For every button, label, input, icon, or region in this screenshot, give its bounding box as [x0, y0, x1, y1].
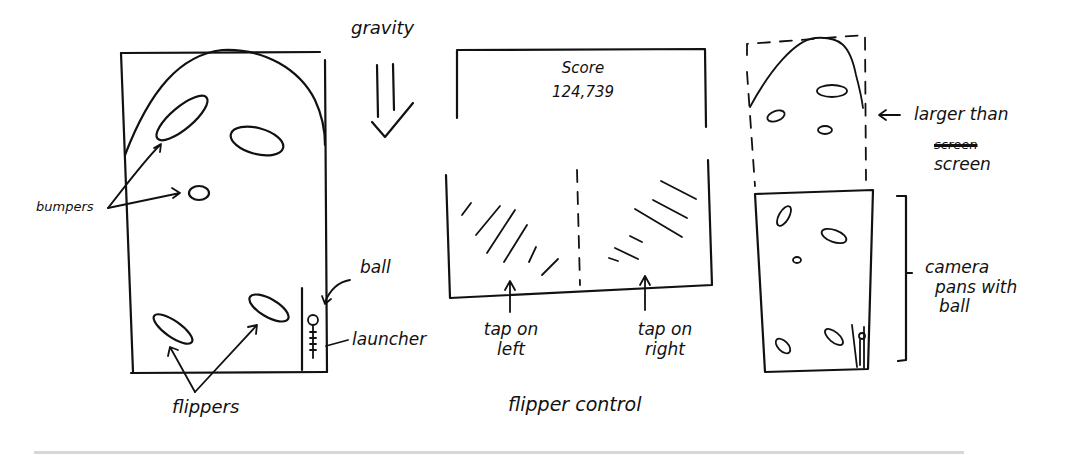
- offscreen-arch: [750, 38, 863, 108]
- play-screen-frame: [446, 160, 712, 298]
- bumper-top-right: [228, 121, 287, 160]
- sketch-drawing: [0, 0, 1089, 455]
- screen-flipper-right: [822, 326, 845, 348]
- tap-right-line-2: right: [620, 340, 710, 360]
- tap-left-line-1: tap on: [466, 320, 556, 340]
- camera-pans-label: camera pans with ball: [925, 258, 1017, 317]
- offscreen-table-dashes-left: [747, 72, 755, 186]
- bumpers-label: bumpers: [36, 200, 94, 215]
- flippers-arrow-1: [168, 347, 195, 392]
- tap-right-line-1: tap on: [620, 320, 710, 340]
- score-value: 124,739: [540, 84, 626, 101]
- tap-right-label: tap on right: [620, 320, 710, 359]
- tap-left-label: tap on left: [466, 320, 556, 359]
- visible-screen-frame: [755, 190, 873, 372]
- bumper-top-left: [150, 89, 213, 147]
- bumpers-arrow-2: [108, 188, 180, 208]
- camera-panning: [747, 35, 912, 372]
- tap-zone-right-hatching: [609, 181, 696, 261]
- center-divider: [577, 170, 580, 285]
- camera-bracket: [897, 196, 912, 361]
- mini-bumper-3: [818, 126, 832, 134]
- screen-bumper-2: [820, 226, 849, 246]
- screen-flipper-left: [773, 336, 793, 356]
- tap-left-line-2: left: [466, 340, 556, 360]
- offscreen-table-dashes-right: [747, 35, 866, 180]
- larger-than-arrow-icon: [879, 110, 900, 120]
- tap-left-arrow-icon: [505, 281, 515, 312]
- table-left-edge: [121, 53, 133, 372]
- tap-right-arrow-icon: [640, 276, 650, 310]
- camera-pans-line-1: camera: [925, 258, 1017, 278]
- launcher-spring: [310, 326, 316, 358]
- screen-launcher: [852, 325, 864, 368]
- ball: [308, 315, 318, 325]
- flippers-label: flippers: [172, 397, 239, 418]
- bottom-divider: [34, 451, 964, 454]
- camera-pans-line-3: ball: [925, 297, 1017, 317]
- launcher-label: launcher: [352, 330, 426, 350]
- flipper-right: [245, 289, 292, 327]
- tap-zone-left-hatching: [462, 203, 558, 275]
- gravity-arrow-icon: [372, 64, 413, 137]
- table-bottom-edge: [131, 372, 327, 373]
- struck-word: screen: [934, 138, 978, 153]
- ball-label: ball: [360, 258, 391, 278]
- flippers-arrow-2: [195, 325, 257, 392]
- screen-bumper-3: [793, 257, 801, 263]
- table-top-edge: [121, 52, 320, 53]
- mini-bumper-2: [766, 108, 786, 124]
- gravity-label: gravity: [351, 18, 414, 39]
- score-title: Score: [548, 60, 618, 77]
- table-right-edge: [325, 60, 327, 372]
- screen-bumper-1: [774, 204, 794, 228]
- flipper-control-caption: flipper control: [508, 394, 642, 416]
- flipper-left: [150, 309, 197, 348]
- screen-label: screen: [934, 155, 991, 175]
- camera-pans-line-2: pans with: [925, 278, 1017, 298]
- mini-bumper-1: [817, 85, 847, 97]
- larger-than-label: larger than: [914, 105, 1008, 125]
- table-arch: [125, 50, 325, 155]
- launcher-arrow: [326, 340, 348, 346]
- bumper-small: [189, 186, 209, 200]
